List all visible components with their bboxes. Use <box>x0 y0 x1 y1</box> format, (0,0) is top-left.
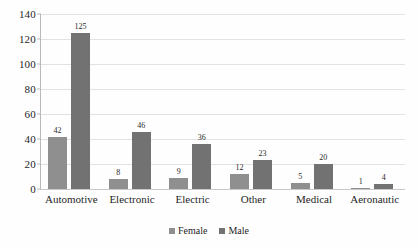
bar-female[interactable]: 1 <box>351 188 370 189</box>
legend-label: Male <box>228 226 249 236</box>
y-tick-label-60: 60 <box>25 109 36 120</box>
bar-female[interactable]: 8 <box>109 179 128 189</box>
y-tick-label-40: 40 <box>25 134 36 145</box>
bar-male[interactable]: 20 <box>314 164 333 189</box>
bar-female[interactable]: 12 <box>230 174 249 189</box>
x-category-label: Electronic <box>109 193 154 206</box>
bar-group: 520 <box>284 14 345 189</box>
bar-group: 1223 <box>223 14 284 189</box>
y-tick-label-0: 0 <box>30 184 36 195</box>
bar-value-label: 20 <box>319 154 327 162</box>
x-axis-labels: AutomotiveElectronicElectricOtherMedical… <box>41 193 405 209</box>
bar-female[interactable]: 9 <box>169 178 188 189</box>
x-category-label: Automotive <box>45 193 98 206</box>
y-tick-label-120: 120 <box>19 34 36 45</box>
bar-male[interactable]: 23 <box>253 160 272 189</box>
bar-group: 846 <box>102 14 163 189</box>
bar-group: 42125 <box>41 14 102 189</box>
bars-layer: 42125846936122352014 <box>41 14 405 189</box>
bar-value-label: 9 <box>177 168 181 176</box>
bar-value-label: 125 <box>75 23 87 31</box>
bar-value-label: 36 <box>198 134 206 142</box>
bar-value-label: 5 <box>298 173 302 181</box>
y-tick-label-80: 80 <box>25 84 36 95</box>
legend-item-male[interactable]: Male <box>219 226 249 236</box>
legend-swatch-icon <box>219 228 225 234</box>
legend-item-female[interactable]: Female <box>169 226 207 236</box>
y-tick-label-20: 20 <box>25 159 36 170</box>
bar-male[interactable]: 46 <box>132 132 151 190</box>
legend-swatch-icon <box>169 228 175 234</box>
bar-value-label: 23 <box>259 150 267 158</box>
bar-value-label: 42 <box>54 127 62 135</box>
x-category-label: Electric <box>176 193 210 206</box>
chart-legend: FemaleMale <box>0 226 418 236</box>
x-category-label: Aeronautic <box>350 193 399 206</box>
bar-female[interactable]: 5 <box>291 183 310 189</box>
bar-group: 14 <box>344 14 405 189</box>
bar-value-label: 8 <box>116 169 120 177</box>
bar-value-label: 4 <box>382 174 386 182</box>
x-category-label: Medical <box>296 193 332 206</box>
bar-value-label: 12 <box>236 164 244 172</box>
bar-group: 936 <box>162 14 223 189</box>
bar-male[interactable]: 36 <box>192 144 211 189</box>
gridline-0 <box>40 189 405 190</box>
bar-male[interactable]: 125 <box>71 33 90 189</box>
legend-label: Female <box>178 226 207 236</box>
bar-male[interactable]: 4 <box>374 184 393 189</box>
bar-female[interactable]: 42 <box>48 137 67 190</box>
y-tick-label-100: 100 <box>19 59 36 70</box>
bar-value-label: 46 <box>137 122 145 130</box>
y-tick-label-140: 140 <box>19 9 36 20</box>
y-axis-labels: 140120100806040200 <box>0 14 36 189</box>
x-category-label: Other <box>241 193 266 206</box>
bar-value-label: 1 <box>359 178 363 186</box>
grouped-bar-chart: 140120100806040200 42125846936122352014 … <box>0 0 418 249</box>
